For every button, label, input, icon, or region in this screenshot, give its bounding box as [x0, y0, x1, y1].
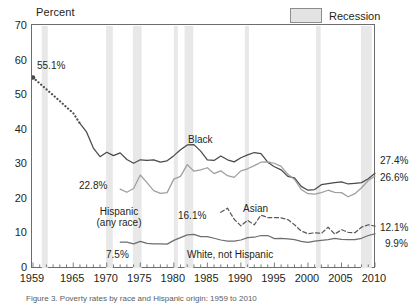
- chart-canvas: [32, 25, 376, 269]
- y-tick-label: 60: [3, 54, 27, 66]
- series-start-marker: [32, 75, 35, 80]
- annotation-series-black: Black: [188, 134, 212, 145]
- recession-band: [316, 26, 321, 268]
- chart-figure: Percent Recession 010203040506070 195919…: [0, 0, 416, 304]
- series-line-black: [80, 123, 375, 190]
- end-label-white: 9.9%: [385, 238, 408, 249]
- y-tick-label: 20: [3, 192, 27, 204]
- legend: Recession: [290, 8, 380, 23]
- end-label-asian: 12.1%: [380, 222, 408, 233]
- annotation-series-white: White, not Hispanic: [187, 249, 273, 260]
- recession-band: [106, 26, 113, 268]
- legend-label-recession: Recession: [329, 10, 380, 22]
- series-line-black-dotted: [33, 78, 80, 124]
- recession-band: [133, 26, 142, 268]
- recession-band: [361, 26, 372, 268]
- y-tick-label: 30: [3, 157, 27, 169]
- legend-swatch-recession: [290, 8, 322, 23]
- recession-band: [245, 26, 249, 268]
- annotation-hispanic-start: 22.8%: [79, 180, 107, 191]
- plot-area: [31, 24, 375, 268]
- figure-caption: Figure 3. Poverty rates by race and Hisp…: [26, 294, 416, 303]
- y-tick-label: 50: [3, 88, 27, 100]
- annotation-series-asian: Asian: [243, 203, 268, 214]
- y-tick-label: 40: [3, 123, 27, 135]
- annotation-series-hispanic-line2: (any race): [84, 217, 154, 228]
- recession-band: [185, 26, 194, 268]
- annotation-black-start: 55.1%: [37, 60, 65, 71]
- annotation-white-start: 7.5%: [106, 249, 129, 260]
- x-tick-label: 2010: [354, 272, 394, 284]
- end-label-black: 27.4%: [380, 155, 408, 166]
- x-tick-label: 1959: [12, 272, 52, 284]
- recession-band: [174, 26, 178, 268]
- annotation-asian-start: 16.1%: [178, 210, 206, 221]
- y-tick-label: 70: [3, 19, 27, 31]
- end-label-hispanic: 26.6%: [380, 172, 408, 183]
- y-tick-label: 10: [3, 226, 27, 238]
- annotation-series-hispanic-line1: Hispanic: [84, 206, 154, 217]
- y-axis-title: Percent: [36, 6, 75, 18]
